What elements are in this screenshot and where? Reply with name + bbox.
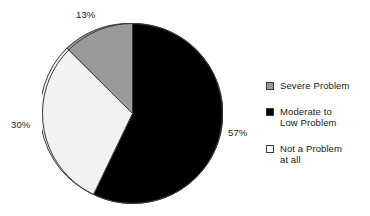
chart-legend: Severe Problem Moderate to Low Problem N… <box>266 80 366 166</box>
legend-label-moderate: Moderate to Low Problem <box>280 106 337 129</box>
pie-value-label-not-a-problem: 30% <box>11 119 30 130</box>
legend-swatch-moderate-icon <box>266 108 274 116</box>
legend-item-severe[interactable]: Severe Problem <box>266 80 366 92</box>
legend-label-not-a-problem: Not a Problem at all <box>280 143 342 166</box>
pie-svg <box>42 22 223 205</box>
pie-value-label-moderate: 57% <box>228 127 247 138</box>
legend-swatch-severe-icon <box>266 82 274 90</box>
legend-label-severe: Severe Problem <box>280 80 350 92</box>
pie-chart-graphic <box>42 22 223 205</box>
pie-chart-figure: 13% 30% 57% Severe Problem Moderate to L… <box>0 0 370 216</box>
pie-value-label-severe: 13% <box>76 9 95 20</box>
legend-item-not-a-problem[interactable]: Not a Problem at all <box>266 143 366 166</box>
legend-item-moderate[interactable]: Moderate to Low Problem <box>266 106 366 129</box>
legend-swatch-not-a-problem-icon <box>266 145 274 153</box>
